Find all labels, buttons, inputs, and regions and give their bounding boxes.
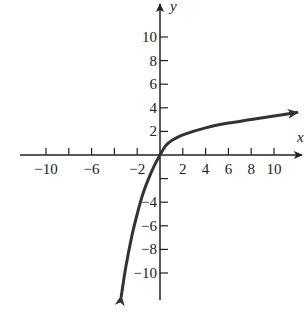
- x-tick-label: 4: [202, 161, 210, 177]
- x-tick-label: −10: [34, 161, 57, 177]
- x-tick-label: 8: [247, 161, 255, 177]
- y-axis-label: y: [168, 0, 177, 14]
- x-tick-label: −2: [129, 161, 145, 177]
- x-tick-label: −6: [84, 161, 100, 177]
- x-axis-tick-labels: −10−6−2246810: [34, 161, 281, 177]
- y-tick-label: 4: [150, 100, 158, 116]
- y-tick-label: −10: [134, 265, 157, 281]
- y-tick-label: 8: [150, 53, 158, 69]
- function-graph: −10−6−2246810 108642−4−6−8−10 y x: [0, 0, 304, 312]
- x-tick-label: 2: [179, 161, 187, 177]
- y-tick-label: 2: [150, 123, 158, 139]
- x-axis-label: x: [296, 129, 304, 145]
- y-tick-label: −6: [141, 218, 157, 234]
- y-tick-label: −8: [141, 241, 157, 257]
- x-tick-label: 10: [267, 161, 282, 177]
- y-tick-label: 6: [150, 76, 158, 92]
- x-tick-label: 6: [225, 161, 233, 177]
- y-tick-label: 10: [142, 29, 157, 45]
